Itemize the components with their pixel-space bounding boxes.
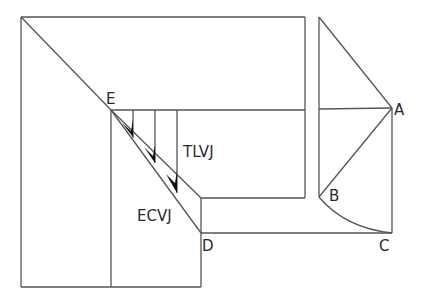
label-ecvj: ECVJ: [137, 207, 172, 225]
label-a: A: [394, 101, 405, 119]
diagram-canvas: E A B C D TLVJ ECVJ: [0, 0, 424, 300]
label-tlvj: TLVJ: [182, 143, 214, 161]
label-d: D: [202, 237, 214, 255]
upper-diagonal: [21, 17, 111, 110]
label-c: C: [379, 237, 389, 255]
label-e: E: [106, 90, 115, 108]
outer-frame: [21, 17, 305, 287]
label-b: B: [329, 187, 339, 205]
a-to-b-diagonal: [319, 108, 392, 197]
top-to-a-diagonal: [319, 17, 392, 108]
arrow-icon: [166, 171, 177, 193]
flow-arrows: [122, 120, 177, 193]
inner-horizontal-right: [319, 108, 392, 109]
